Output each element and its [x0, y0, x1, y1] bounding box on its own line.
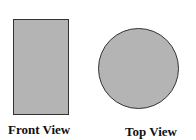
- front-view-rectangle: [13, 19, 69, 115]
- top-view-circle: [98, 28, 179, 109]
- top-view-label: Top View: [125, 124, 177, 140]
- front-view-label: Front View: [8, 122, 70, 138]
